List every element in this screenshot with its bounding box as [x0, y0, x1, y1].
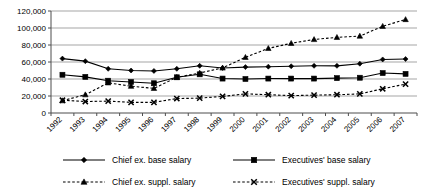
data-point-diamond-marker: [60, 56, 65, 61]
data-point-square-marker: [289, 76, 294, 81]
series-diamond: [60, 56, 408, 73]
data-point-diamond-marker: [334, 63, 339, 68]
data-point-diamond-marker: [289, 64, 294, 69]
series-x: [60, 82, 408, 105]
x-tick-label: 2007: [388, 115, 407, 134]
y-axis-tick-labels: 020,00040,00060,00080,000100,000120,000: [17, 7, 46, 118]
y-tick-label: 40,000: [22, 75, 47, 84]
x-tick-label: 1998: [182, 115, 201, 134]
data-point-diamond-marker: [151, 68, 156, 73]
legend-item-0[interactable]: Chief ex. base salary: [63, 155, 192, 165]
x-tick-label: 2003: [297, 115, 316, 134]
data-point-square-marker: [60, 72, 65, 77]
data-point-diamond-marker: [129, 68, 134, 73]
x-tick-label: 1994: [91, 115, 110, 134]
y-tick-label: 0: [42, 109, 47, 118]
data-point-diamond-marker: [266, 64, 271, 69]
data-point-triangle-marker: [334, 34, 340, 39]
data-point-square-marker: [312, 76, 317, 81]
data-point-diamond-marker: [83, 59, 88, 64]
legend-label: Chief ex. base salary: [112, 155, 192, 165]
data-point-triangle-marker: [83, 92, 89, 97]
legend-item-2[interactable]: Chief ex. suppl. salary: [63, 177, 196, 187]
y-tick-label: 80,000: [22, 41, 47, 50]
x-tick-label: 2000: [228, 115, 247, 134]
data-point-square-marker: [243, 77, 248, 82]
x-tick-label: 1996: [136, 115, 155, 134]
y-tick-label: 100,000: [17, 24, 46, 33]
data-point-triangle-marker: [288, 40, 294, 45]
legend-label: Executives' suppl. salary: [282, 177, 376, 187]
legend-item-3[interactable]: Executives' suppl. salary: [233, 177, 376, 187]
legend-label: Chief ex. suppl. salary: [112, 177, 196, 187]
series-line: [62, 73, 405, 83]
x-tick-label: 1993: [68, 115, 87, 134]
data-point-square-marker: [403, 71, 408, 76]
data-point-triangle-marker: [357, 33, 363, 38]
x-tick-label: 2002: [274, 115, 293, 134]
data-point-diamond-marker: [81, 157, 86, 162]
x-tick-label: 1995: [114, 115, 133, 134]
data-point-diamond-marker: [243, 65, 248, 70]
data-point-diamond-marker: [197, 63, 202, 68]
data-point-triangle-marker: [311, 37, 317, 42]
series-line: [62, 59, 405, 71]
data-point-diamond-marker: [380, 57, 385, 62]
data-point-square-marker: [83, 74, 88, 79]
series-square: [60, 71, 408, 86]
series-triangle: [60, 17, 409, 103]
data-point-square-marker: [357, 75, 362, 80]
x-tick-label: 1992: [45, 115, 64, 134]
data-point-triangle-marker: [266, 46, 272, 51]
legend-label: Executives' base salary: [282, 155, 371, 165]
x-tick-label: 1999: [205, 115, 224, 134]
chart-legend: Chief ex. base salaryExecutives' base sa…: [63, 155, 376, 187]
data-point-triangle-marker: [403, 17, 409, 22]
data-series-group: [60, 17, 409, 105]
series-line: [62, 20, 405, 101]
x-tick-label: 2006: [365, 115, 384, 134]
data-point-square-marker: [251, 157, 256, 162]
data-point-x-marker: [403, 82, 408, 87]
data-point-diamond-marker: [403, 57, 408, 62]
data-point-square-marker: [334, 76, 339, 81]
data-point-diamond-marker: [174, 66, 179, 71]
data-point-diamond-marker: [106, 66, 111, 71]
x-axis: [51, 113, 417, 116]
data-point-square-marker: [266, 76, 271, 81]
data-point-diamond-marker: [312, 63, 317, 68]
y-axis: [48, 11, 51, 113]
x-tick-label: 2004: [319, 115, 338, 134]
x-tick-label: 1997: [159, 115, 178, 134]
legend-item-1[interactable]: Executives' base salary: [233, 155, 371, 165]
series-line: [62, 84, 405, 102]
data-point-square-marker: [380, 71, 385, 76]
y-tick-label: 60,000: [22, 58, 47, 67]
salary-trend-chart: 020,00040,00060,00080,000100,000120,000 …: [0, 0, 429, 195]
x-tick-label: 2005: [342, 115, 361, 134]
x-tick-label: 2001: [251, 115, 270, 134]
chart-canvas: 020,00040,00060,00080,000100,000120,000 …: [0, 0, 429, 195]
x-axis-tick-labels: 1992199319941995199619971998199920002001…: [45, 115, 407, 134]
y-tick-label: 20,000: [22, 92, 47, 101]
y-tick-label: 120,000: [17, 7, 46, 16]
data-point-square-marker: [220, 76, 225, 81]
